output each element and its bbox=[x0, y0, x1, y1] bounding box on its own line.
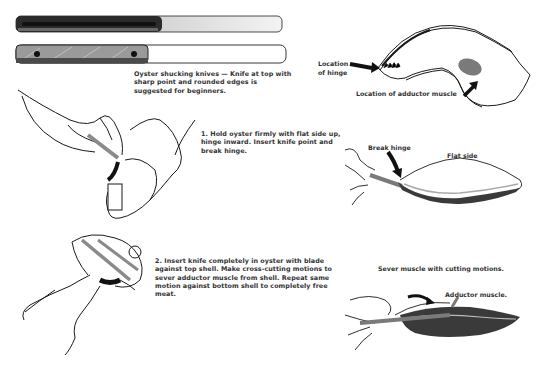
adductor-muscle-label: Adductor muscle. bbox=[445, 291, 507, 299]
hinge-label-line2: of hinge bbox=[318, 69, 347, 77]
step-2-text: 2. Insert knife completely in oyster wit… bbox=[155, 257, 340, 298]
sever-muscle-diagram bbox=[340, 285, 540, 365]
sever-caption: Sever muscle with cutting motions. bbox=[378, 265, 504, 273]
hands-insert-knife-illustration bbox=[0, 220, 180, 369]
hands-hold-oyster-illustration bbox=[0, 80, 200, 230]
step-1-text: 1. Hold oyster firmly with flat side up,… bbox=[201, 130, 349, 155]
break-hinge-label: Break hinge bbox=[368, 144, 411, 152]
adductor-location-label: Location of adductor muscle bbox=[356, 90, 457, 98]
knife-bottom-icon bbox=[0, 0, 290, 70]
flat-side-label: Flat side bbox=[447, 152, 478, 160]
break-hinge-diagram bbox=[340, 140, 540, 220]
hinge-label-line1: Location bbox=[318, 60, 348, 68]
